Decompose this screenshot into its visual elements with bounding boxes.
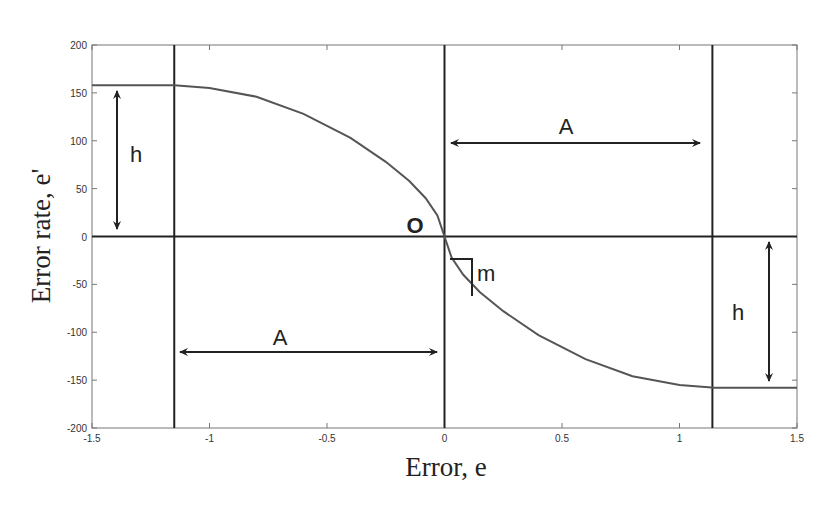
h-label-right: h bbox=[732, 300, 744, 325]
x-tick-label: -0.5 bbox=[318, 433, 336, 444]
x-tick-label: 0.5 bbox=[555, 433, 569, 444]
y-tick-label: -100 bbox=[67, 327, 87, 338]
origin-label: O bbox=[406, 213, 423, 238]
x-axis-title: Error, e bbox=[405, 452, 486, 482]
y-tick-label: 0 bbox=[81, 232, 87, 243]
a-label-bottom: A bbox=[273, 325, 288, 350]
y-tick-label: 150 bbox=[70, 88, 87, 99]
y-tick-label: 200 bbox=[70, 40, 87, 51]
h-label-left: h bbox=[130, 142, 142, 167]
a-label-top: A bbox=[559, 114, 574, 139]
y-tick-label: -50 bbox=[73, 279, 88, 290]
chart: 200150100500-50-100-150-200 -1.5-1-0.500… bbox=[0, 0, 840, 510]
x-tick-label: 1.5 bbox=[790, 433, 804, 444]
x-tick-label: 0 bbox=[442, 433, 448, 444]
x-tick-label: -1 bbox=[205, 433, 214, 444]
y-axis-title: Error rate, e' bbox=[26, 169, 56, 304]
y-tick-label: 50 bbox=[76, 184, 88, 195]
x-tick-label: 1 bbox=[677, 433, 683, 444]
slope-label: m bbox=[477, 261, 495, 286]
y-tick-label: 100 bbox=[70, 136, 87, 147]
y-tick-label: -150 bbox=[67, 375, 87, 386]
x-tick-label: -1.5 bbox=[83, 433, 101, 444]
